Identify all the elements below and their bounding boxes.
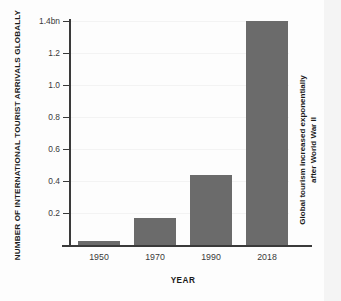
x-tick-label-group: 1950197019902018 — [71, 252, 295, 266]
y-tick-label: 0.6 — [20, 144, 60, 154]
x-tick-label: 1970 — [145, 252, 165, 262]
x-tick-label: 1950 — [89, 252, 109, 262]
bar[interactable] — [78, 241, 119, 245]
annotation-line-1: Global tourism increased exponentially — [298, 75, 309, 224]
annotation-line-2: after World War II — [309, 117, 320, 183]
y-tick-label: 0.8 — [20, 112, 60, 122]
y-tick-mark — [63, 181, 69, 182]
annotation-side-note: Global tourism increased exponentially a… — [297, 55, 321, 245]
bar-group — [71, 21, 295, 245]
x-axis-title: YEAR — [71, 276, 295, 285]
y-tick-label: 1.0 — [20, 80, 60, 90]
y-tick-label: 1.4bn — [20, 16, 60, 26]
y-tick-mark — [63, 85, 69, 86]
y-tick-label-group: 0.20.40.60.81.01.21.4bn — [16, 0, 60, 301]
y-tick-label: 0.2 — [20, 208, 60, 218]
bar[interactable] — [246, 21, 287, 245]
chart-figure: NUMBER OF INTERNATIONAL TOURIST ARRIVALS… — [0, 0, 341, 301]
x-tick-label: 1990 — [201, 252, 221, 262]
x-tick-label: 2018 — [257, 252, 277, 262]
y-tick-mark — [63, 53, 69, 54]
right-edge-strip — [324, 0, 341, 301]
y-tick-mark — [63, 213, 69, 214]
y-tick-mark — [63, 21, 69, 22]
y-tick-label: 1.2 — [20, 48, 60, 58]
x-axis-line — [62, 245, 312, 247]
bar[interactable] — [190, 175, 231, 245]
y-tick-mark — [63, 149, 69, 150]
y-tick-label: 0.4 — [20, 176, 60, 186]
bar[interactable] — [134, 218, 175, 245]
y-tick-mark — [63, 117, 69, 118]
